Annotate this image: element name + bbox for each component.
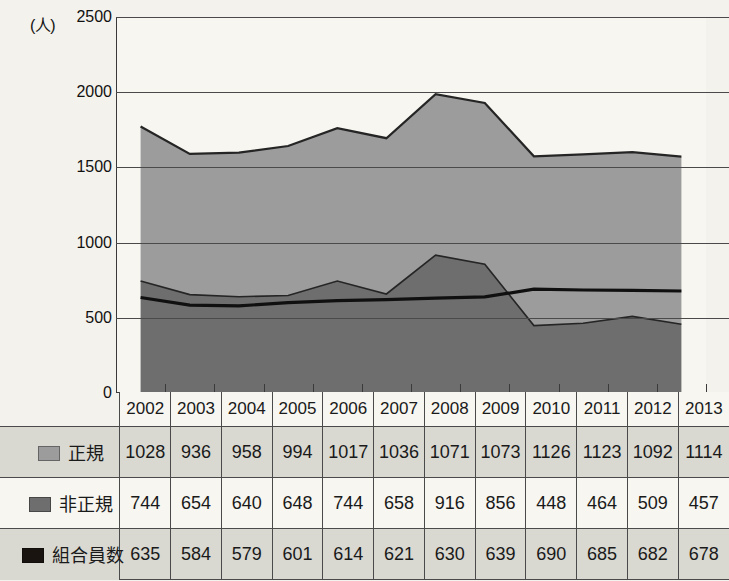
table-year-2005: 2005 [272,392,323,427]
table-year-2011: 2011 [577,392,628,427]
table-year-2013: 2013 [678,392,729,427]
gridline-500 [116,318,729,319]
table-cell: 601 [272,529,323,580]
data-table: 2002200320042005200620072008200920102011… [0,392,729,580]
y-tick-2500: 2500 [38,9,112,25]
data-table-block: 2002200320042005200620072008200920102011… [0,392,729,581]
legend-swatch-icon [38,446,60,461]
y-axis-tick-labels: 25002000150010005000 [34,0,112,393]
table-cell: 457 [678,478,729,529]
table-cell: 936 [171,427,222,478]
table-cell: 685 [577,529,628,580]
table-cell: 614 [323,529,374,580]
table-cell: 658 [374,478,425,529]
y-tick-1500: 1500 [38,159,112,175]
table-row: 組合員数635584579601614621630639690685682678 [0,529,729,580]
table-cell: 654 [171,478,222,529]
table-cell: 856 [475,478,526,529]
table-cell: 1114 [678,427,729,478]
table-cell: 1123 [577,427,628,478]
table-cell: 464 [577,478,628,529]
table-year-2006: 2006 [323,392,374,427]
legend-label: 非正規 [59,495,113,515]
gridline-2000 [116,92,729,93]
table-corner-cell [0,392,120,427]
y-tick-2000: 2000 [38,84,112,100]
table-year-2008: 2008 [424,392,475,427]
table-cell: 648 [272,478,323,529]
table-cell: 994 [272,427,323,478]
legend-label: 正規 [68,444,104,464]
table-cell: 584 [171,529,222,580]
gridline-2500 [116,17,729,18]
table-cell: 744 [323,478,374,529]
table-cell: 1126 [526,427,577,478]
legend-item-kumiai: 組合員数 [0,529,120,580]
table-row: 非正規744654640648744658916856448464509457 [0,478,729,529]
legend-item-seiki: 正規 [0,427,120,478]
table-year-2002: 2002 [120,392,171,427]
table-year-2009: 2009 [475,392,526,427]
gridline-1500 [116,167,729,168]
table-cell: 630 [424,529,475,580]
table-cell: 640 [221,478,272,529]
y-tick-1000: 1000 [38,235,112,251]
table-cell: 744 [120,478,171,529]
table-cell: 1036 [374,427,425,478]
table-cell: 1071 [424,427,475,478]
table-cell: 1092 [627,427,678,478]
chart-area: (人) 25002000150010005000 [0,0,729,393]
table-cell: 916 [424,478,475,529]
table-year-2003: 2003 [171,392,222,427]
table-year-2012: 2012 [627,392,678,427]
table-cell: 509 [627,478,678,529]
table-cell: 579 [221,529,272,580]
chart-series-svg [116,17,706,393]
table-cell: 682 [627,529,678,580]
table-year-header-row: 2002200320042005200620072008200920102011… [0,392,729,427]
y-tick-500: 500 [38,310,112,326]
gridline-1000 [116,243,729,244]
table-year-2007: 2007 [374,392,425,427]
table-cell: 1073 [475,427,526,478]
table-cell: 958 [221,427,272,478]
table-cell: 1028 [120,427,171,478]
table-cell: 621 [374,529,425,580]
table-cell: 635 [120,529,171,580]
table-year-2004: 2004 [221,392,272,427]
legend-item-hiseiki: 非正規 [0,478,120,529]
table-cell: 1017 [323,427,374,478]
legend-swatch-icon [22,548,44,563]
table-row: 正規10289369589941017103610711073112611231… [0,427,729,478]
table-cell: 639 [475,529,526,580]
table-year-2010: 2010 [526,392,577,427]
legend-label: 組合員数 [52,546,124,566]
table-cell: 678 [678,529,729,580]
table-cell: 448 [526,478,577,529]
legend-swatch-icon [29,497,51,512]
table-cell: 690 [526,529,577,580]
